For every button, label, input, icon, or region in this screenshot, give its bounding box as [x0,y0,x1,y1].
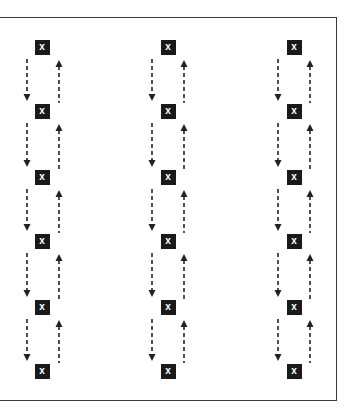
station-marker: x [287,300,302,315]
arrow-up-icon [181,60,188,67]
arrow-down-icon [275,224,282,231]
arrow-up-icon [56,124,63,131]
arrow-up-icon [56,60,63,67]
station-marker: x [35,364,50,379]
arrow-down-icon [24,94,31,101]
arrow-up-icon [181,320,188,327]
station-marker: x [161,170,176,185]
station-marker: x [35,170,50,185]
arrow-up-icon [307,190,314,197]
arrow-up-icon [307,254,314,261]
arrow-down-icon [24,290,31,297]
arrow-down-icon [149,160,156,167]
station-marker: x [287,364,302,379]
station-marker: x [161,104,176,119]
arrow-up-icon [56,320,63,327]
arrow-down-icon [149,290,156,297]
arrow-down-icon [24,354,31,361]
station-marker: x [287,170,302,185]
station-marker: x [287,40,302,55]
station-marker: x [161,300,176,315]
station-marker: x [35,234,50,249]
station-marker: x [35,104,50,119]
arrows-layer [0,0,346,412]
arrow-down-icon [24,160,31,167]
arrow-up-icon [181,254,188,261]
arrow-up-icon [56,190,63,197]
station-marker: x [161,364,176,379]
station-marker: x [161,40,176,55]
arrow-down-icon [24,224,31,231]
arrow-up-icon [307,124,314,131]
arrow-down-icon [275,160,282,167]
arrow-down-icon [275,354,282,361]
arrow-up-icon [307,320,314,327]
station-marker: x [287,104,302,119]
arrow-down-icon [275,290,282,297]
arrow-down-icon [149,354,156,361]
arrow-down-icon [275,94,282,101]
station-marker: x [161,234,176,249]
station-diagram: xxxxxxxxxxxxxxxxxx [0,0,346,412]
station-marker: x [287,234,302,249]
arrow-up-icon [56,254,63,261]
arrow-down-icon [149,224,156,231]
arrow-up-icon [181,124,188,131]
arrow-down-icon [149,94,156,101]
arrow-up-icon [181,190,188,197]
station-marker: x [35,300,50,315]
arrow-up-icon [307,60,314,67]
station-marker: x [35,40,50,55]
